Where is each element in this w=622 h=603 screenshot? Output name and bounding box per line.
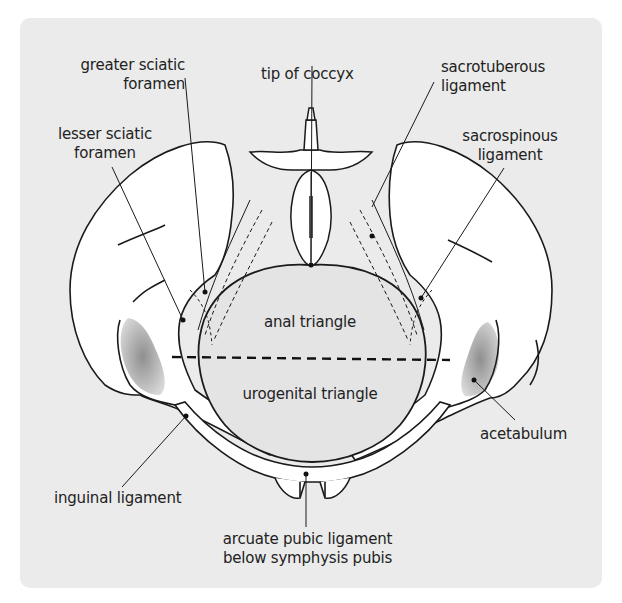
label-line: urogenital triangle — [225, 385, 395, 404]
label-line: inguinal ligament — [54, 489, 181, 508]
label-inguinal-ligament: inguinal ligament — [54, 489, 181, 508]
label-arcuate-pubic-ligament: arcuate pubic ligament below symphysis p… — [210, 530, 405, 568]
label-line: greater sciatic — [60, 56, 185, 75]
label-line: sacrospinous — [455, 127, 565, 146]
label-acetabulum: acetabulum — [480, 425, 567, 444]
label-greater-sciatic-foramen: greater sciatic foramen — [60, 56, 185, 94]
label-line: arcuate pubic ligament — [210, 530, 405, 549]
label-anal-triangle: anal triangle — [250, 313, 370, 332]
label-line: lesser sciatic — [50, 125, 160, 144]
label-sacrotuberous-ligament: sacrotuberous ligament — [441, 58, 545, 96]
label-line: below symphysis pubis — [210, 549, 405, 568]
label-line: tip of coccyx — [261, 65, 354, 84]
label-lesser-sciatic-foramen: lesser sciatic foramen — [50, 125, 160, 163]
label-tip-of-coccyx: tip of coccyx — [261, 65, 354, 84]
label-urogenital-triangle: urogenital triangle — [225, 385, 395, 404]
label-line: foramen — [50, 144, 160, 163]
label-line: ligament — [455, 146, 565, 165]
label-line: foramen — [60, 75, 185, 94]
label-line: anal triangle — [250, 313, 370, 332]
label-line: ligament — [441, 77, 545, 96]
pelvic-outlet — [199, 265, 426, 462]
label-line: acetabulum — [480, 425, 567, 444]
label-sacrospinous-ligament: sacrospinous ligament — [455, 127, 565, 165]
label-line: sacrotuberous — [441, 58, 545, 77]
